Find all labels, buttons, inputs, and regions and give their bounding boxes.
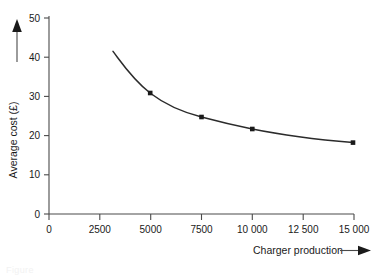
x-tick-labels: 0 2500 5000 7500 10 000 12 500 15 000 [46,224,370,235]
x-tick-label-0: 0 [46,224,52,235]
y-tick-label-40: 40 [29,52,41,63]
data-point-marker [351,140,356,145]
x-tick-label-10000: 10 000 [237,224,268,235]
y-tick-labels: 0 10 20 30 40 50 [29,13,41,220]
y-tick-label-20: 20 [29,130,41,141]
data-point-marker [250,127,255,132]
y-tick-label-10: 10 [29,169,41,180]
y-tick-label-30: 30 [29,91,41,102]
y-tick-label-0: 0 [34,209,40,220]
x-tick-label-2500: 2500 [89,224,112,235]
x-tick-label-7500: 7500 [190,224,213,235]
y-tick-label-50: 50 [29,13,41,24]
x-tick-marks [49,214,354,220]
x-axis-arrow-icon [340,246,371,256]
y-axis-group: 0 10 20 30 40 50 Average cost (£) [7,13,49,220]
x-tick-label-15000: 15 000 [339,224,370,235]
x-axis-title: Charger production [253,244,343,256]
average-cost-curve [113,51,353,142]
data-point-marker [199,115,204,120]
x-axis-group: 0 2500 5000 7500 10 000 12 500 15 000 Ch… [46,214,371,256]
x-tick-label-5000: 5000 [140,224,163,235]
data-series-average-cost [113,51,355,145]
x-tick-label-12500: 12 500 [288,224,319,235]
chart-canvas: 0 10 20 30 40 50 Average cost (£) [0,0,380,276]
y-axis-arrow-icon [12,19,22,62]
figure-caption-fragment: Figure [6,265,34,275]
y-axis-title: Average cost (£) [7,102,19,179]
y-tick-marks [44,18,49,214]
data-point-marker [148,91,153,96]
chart-figure: 0 10 20 30 40 50 Average cost (£) [0,0,380,276]
